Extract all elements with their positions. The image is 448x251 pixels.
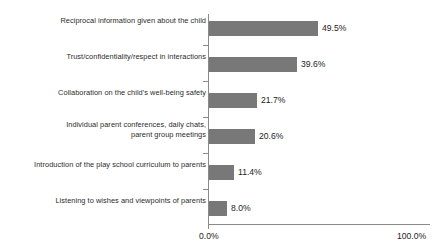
bar (209, 201, 227, 216)
category-label: Individual parent conferences, daily cha… (6, 120, 206, 139)
category-label: Trust/confidentiality/respect in interac… (6, 52, 206, 62)
bar (209, 93, 257, 108)
bar-value-label: 20.6% (259, 129, 283, 144)
bar-row: Individual parent conferences, daily cha… (0, 122, 448, 158)
bar-chart: Reciprocal information given about the c… (0, 0, 448, 251)
bar-row: Introduction of the play school curricul… (0, 158, 448, 194)
category-label: Collaboration on the child's well-being … (6, 88, 206, 98)
bar-value-label: 8.0% (231, 201, 251, 216)
x-axis-tick-label-min: 0.0% (199, 231, 219, 241)
bar-row: Reciprocal information given about the c… (0, 14, 448, 50)
x-axis-tick-label-max: 100.0% (397, 231, 426, 241)
bar-value-label: 21.7% (261, 93, 285, 108)
bar-row: Collaboration on the child's well-being … (0, 86, 448, 122)
plot-area: Reciprocal information given about the c… (0, 0, 448, 251)
category-label: Introduction of the play school curricul… (6, 160, 206, 170)
bar-value-label: 11.4% (238, 165, 262, 180)
bar-row: Listening to wishes and viewpoints of pa… (0, 194, 448, 230)
bar-value-label: 39.6% (301, 57, 325, 72)
bar (209, 21, 318, 36)
bar (209, 129, 255, 144)
bar-value-label: 49.5% (322, 21, 346, 36)
bar-row: Trust/confidentiality/respect in interac… (0, 50, 448, 86)
bar (209, 165, 234, 180)
category-label: Reciprocal information given about the c… (6, 16, 206, 26)
bar (209, 57, 297, 72)
category-label: Listening to wishes and viewpoints of pa… (6, 196, 206, 206)
